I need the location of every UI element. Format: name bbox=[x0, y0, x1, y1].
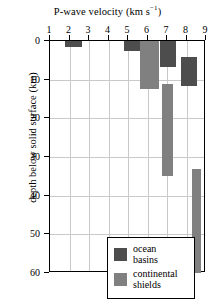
bar-ocean-basins bbox=[65, 41, 81, 47]
bar-ocean-basins bbox=[160, 41, 176, 67]
bar-ocean-basins bbox=[124, 41, 140, 51]
y-gridline bbox=[50, 118, 204, 119]
x-tick-label: 6 bbox=[144, 24, 149, 35]
bar-continental-shields bbox=[162, 84, 174, 177]
chart-title-main: P-wave velocity (km s bbox=[54, 6, 150, 17]
legend-label-line1: ocean bbox=[133, 244, 158, 255]
y-tick-label: 60 bbox=[14, 267, 40, 278]
x-tick-label: 8 bbox=[183, 24, 188, 35]
x-tick-label: 2 bbox=[66, 24, 71, 35]
bar-ocean-basins bbox=[181, 57, 197, 86]
chart-title-exponent: −1 bbox=[150, 4, 158, 12]
y-tick-mark bbox=[44, 272, 49, 273]
x-tick-label: 9 bbox=[203, 24, 208, 35]
x-tick-label: 7 bbox=[164, 24, 169, 35]
x-tick-label: 1 bbox=[47, 24, 52, 35]
chart-title: P-wave velocity (km s−1) bbox=[0, 4, 215, 17]
plot-area: oceanbasinscontinentalshields bbox=[49, 40, 205, 272]
y-tick-label: 0 bbox=[14, 35, 40, 46]
y-tick-label: 10 bbox=[14, 73, 40, 84]
legend-label-line1: continental bbox=[133, 269, 177, 280]
chart-title-close: ) bbox=[158, 6, 162, 17]
legend-label: oceanbasins bbox=[133, 244, 158, 265]
y-tick-label: 40 bbox=[14, 189, 40, 200]
y-tick-label: 50 bbox=[14, 228, 40, 239]
y-gridline bbox=[50, 196, 204, 197]
legend-item: continentalshields bbox=[114, 269, 177, 290]
x-tick-label: 4 bbox=[105, 24, 110, 35]
y-tick-label: 30 bbox=[14, 151, 40, 162]
legend-swatch bbox=[114, 248, 127, 261]
x-tick-label: 5 bbox=[125, 24, 130, 35]
x-gridline bbox=[89, 41, 90, 271]
x-gridline bbox=[70, 41, 71, 271]
legend-label: continentalshields bbox=[133, 269, 177, 290]
legend-label-line2: basins bbox=[133, 255, 158, 266]
x-tick-label: 3 bbox=[86, 24, 91, 35]
x-tick-mark bbox=[205, 35, 206, 40]
legend-swatch bbox=[114, 273, 127, 286]
legend-label-line2: shields bbox=[133, 280, 177, 291]
chart-legend: oceanbasinscontinentalshields bbox=[107, 237, 195, 299]
y-tick-label: 20 bbox=[14, 112, 40, 123]
legend-item: oceanbasins bbox=[114, 244, 158, 265]
y-gridline bbox=[50, 234, 204, 235]
y-gridline bbox=[50, 157, 204, 158]
bar-continental-shields bbox=[140, 41, 159, 89]
